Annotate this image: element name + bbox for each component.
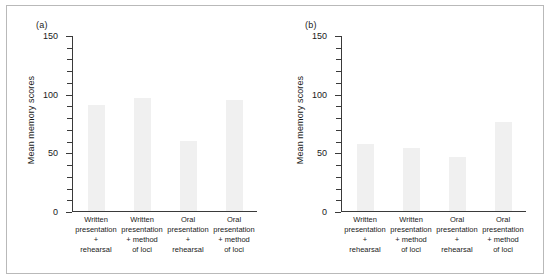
panel-b-y-tick-20: [336, 189, 341, 190]
panel-b-y-tick-50: 50: [335, 153, 341, 154]
x-label-line: Written: [120, 215, 164, 225]
panel-b-y-tick-label-0: 0: [322, 207, 327, 217]
x-label-line: +: [435, 235, 479, 245]
panel-b-bar-2: [403, 148, 420, 211]
panel-b-bar-cell: [480, 36, 526, 211]
x-label-line: of loci: [212, 245, 256, 255]
panel-b-y-tick-0: 0: [335, 212, 341, 213]
panel-a-y-tick-150: 150: [66, 36, 72, 37]
panel-b-y-axis-title: Mean memory scores: [295, 0, 307, 55]
panel-b-bar-4: [495, 122, 512, 211]
panel-a-x-label-3: Oralpresentation+rehearsal: [165, 215, 211, 255]
panel-b-y-tick-140: [336, 48, 341, 49]
panel-a-y-tick-140: [67, 48, 72, 49]
x-label-line: presentation: [212, 225, 256, 235]
panel-a-y-tick-120: [67, 71, 72, 72]
x-label-line: Oral: [435, 215, 479, 225]
panel-b-bar-cell: [388, 36, 434, 211]
panel-b-y-tick-40: [336, 165, 341, 166]
panel-b-y-tick-80: [336, 118, 341, 119]
panel-a-y-tick-100: 100: [66, 95, 72, 96]
panel-b-y-tick-100: 100: [335, 95, 341, 96]
panel-b-y-tick-label-50: 50: [317, 148, 327, 158]
panel-b-y-tick-10: [336, 200, 341, 201]
panel-a-x-tick-labels: Writtenpresentation+rehearsalWrittenpres…: [73, 215, 257, 255]
x-label-line: presentation: [435, 225, 479, 235]
panel-a-y-tick-60: [67, 142, 72, 143]
x-label-line: +: [74, 235, 118, 245]
x-label-line: +: [343, 235, 387, 245]
panel-b-y-axis-title-text: Mean memory scores: [295, 55, 305, 185]
x-label-line: +: [166, 235, 210, 245]
panel-a-y-tick-80: [67, 118, 72, 119]
panel-b-y-tick-90: [336, 106, 341, 107]
panel-a-y-tick-70: [67, 130, 72, 131]
panel-a-y-axis-title: Mean memory scores: [26, 0, 38, 55]
x-label-line: presentation: [389, 225, 433, 235]
x-label-line: rehearsal: [74, 245, 118, 255]
panel-a-y-tick-40: [67, 165, 72, 166]
panel-a-bar-cell: [165, 36, 211, 211]
panel-a-y-tick-label-0: 0: [53, 207, 58, 217]
panel-a-y-tick-90: [67, 106, 72, 107]
panel-b-x-label-2: Writtenpresentation+ methodof loci: [388, 215, 434, 255]
panel-b-y-tick-70: [336, 130, 341, 131]
x-label-line: + method: [212, 235, 256, 245]
panel-b-y-tick-30: [336, 177, 341, 178]
panel-b-x-axis-line: [341, 211, 526, 212]
panel-b-bar-cell: [434, 36, 480, 211]
panel-a-y-tick-50: 50: [66, 153, 72, 154]
panel-a: (a) Mean memory scores 050100150 Written…: [6, 5, 275, 274]
panel-a-bars: [73, 36, 257, 211]
x-label-line: rehearsal: [435, 245, 479, 255]
x-label-line: rehearsal: [343, 245, 387, 255]
panel-b-bar-3: [449, 157, 466, 211]
panel-a-bar-2: [134, 98, 151, 211]
panel-b-plot-area: 050100150: [341, 36, 526, 212]
panel-b-x-tick-labels: Writtenpresentation+rehearsalWrittenpres…: [342, 215, 526, 255]
panel-a-y-tick-30: [67, 177, 72, 178]
x-label-line: of loci: [481, 245, 525, 255]
panel-a-x-label-1: Writtenpresentation+rehearsal: [73, 215, 119, 255]
panel-b-bar-cell: [342, 36, 388, 211]
panel-b-bar-1: [357, 144, 374, 211]
panel-a-y-tick-0: 0: [66, 212, 72, 213]
panel-a-bar-4: [226, 100, 243, 211]
x-label-line: + method: [389, 235, 433, 245]
panel-a-x-label-2: Writtenpresentation+ methodof loci: [119, 215, 165, 255]
panel-b-y-tick-60: [336, 142, 341, 143]
panel-a-x-label-4: Oralpresentation+ methodof loci: [211, 215, 257, 255]
x-label-line: presentation: [343, 225, 387, 235]
panel-b-x-label-4: Oralpresentation+ methodof loci: [480, 215, 526, 255]
panel-row: (a) Mean memory scores 050100150 Written…: [6, 5, 544, 274]
x-label-line: Oral: [481, 215, 525, 225]
x-label-line: rehearsal: [166, 245, 210, 255]
panel-b-y-tick-label-150: 150: [312, 31, 327, 41]
panel-b-y-tick-130: [336, 59, 341, 60]
panel-a-y-tick-label-50: 50: [48, 148, 58, 158]
panel-a-x-axis-line: [72, 211, 257, 212]
panel-b-y-tick-120: [336, 71, 341, 72]
panel-a-y-tick-110: [67, 83, 72, 84]
x-label-line: + method: [120, 235, 164, 245]
panel-b-y-tick-110: [336, 83, 341, 84]
panel-a-y-tick-label-150: 150: [43, 31, 58, 41]
x-label-line: presentation: [74, 225, 118, 235]
panel-a-bar-cell: [73, 36, 119, 211]
panel-a-bar-cell: [211, 36, 257, 211]
x-label-line: Written: [74, 215, 118, 225]
x-label-line: Written: [343, 215, 387, 225]
panel-a-y-tick-20: [67, 189, 72, 190]
x-label-line: Oral: [212, 215, 256, 225]
panel-b-bars: [342, 36, 526, 211]
panel-b-y-tick-label-100: 100: [312, 90, 327, 100]
panel-a-bar-3: [180, 141, 197, 211]
x-label-line: of loci: [120, 245, 164, 255]
x-label-line: presentation: [166, 225, 210, 235]
panel-b-x-label-1: Writtenpresentation+rehearsal: [342, 215, 388, 255]
panel-a-y-axis-title-text: Mean memory scores: [26, 55, 36, 185]
x-label-line: + method: [481, 235, 525, 245]
panel-a-plot-area: 050100150: [72, 36, 257, 212]
x-label-line: presentation: [481, 225, 525, 235]
figure-container: (a) Mean memory scores 050100150 Written…: [0, 0, 550, 280]
